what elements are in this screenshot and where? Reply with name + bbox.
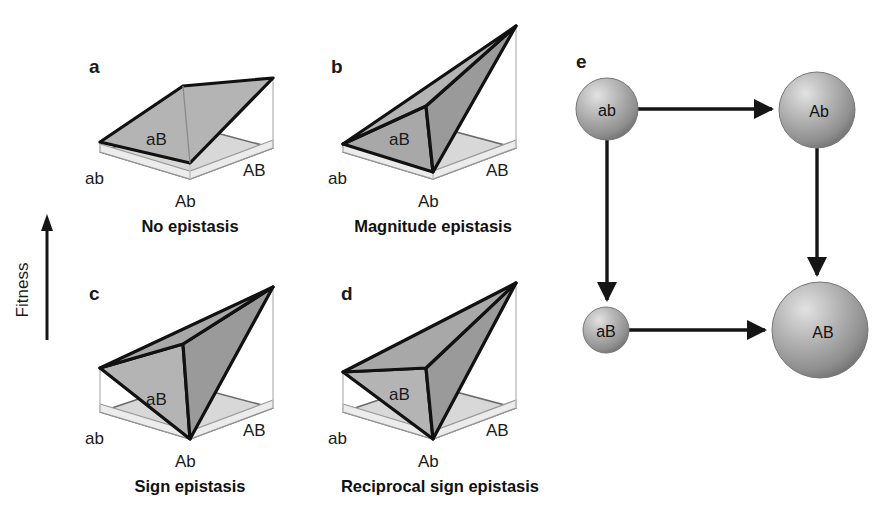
panel-c-vertex-AB: AB xyxy=(243,421,266,440)
node-AB-label: AB xyxy=(812,324,833,341)
epistasis-figure: Fitness a aB ab Ab AB No epistasis b aB … xyxy=(0,0,891,510)
panel-c-vertex-Ab: Ab xyxy=(175,452,196,471)
panel-c-caption: Sign epistasis xyxy=(135,477,246,495)
node-Ab[interactable]: Ab xyxy=(779,72,855,148)
panel-b: b aB ab Ab AB Magnitude epistasis xyxy=(328,26,516,235)
panel-c-letter: c xyxy=(89,283,100,304)
panel-a-vertex-Ab: Ab xyxy=(175,192,196,211)
panel-b-vertex-aB: aB xyxy=(389,130,410,149)
panel-e: e ab Ab aB AB xyxy=(576,51,868,378)
panel-d-vertex-AB: AB xyxy=(486,421,509,440)
panel-d-vertex-aB: aB xyxy=(389,385,410,404)
up-arrow-icon xyxy=(41,214,53,231)
panel-d-vertex-Ab: Ab xyxy=(418,452,439,471)
panel-c-vertex-aB: aB xyxy=(146,390,167,409)
node-aB-label: aB xyxy=(596,323,616,340)
panel-a-vertex-ab: ab xyxy=(85,169,104,188)
panel-d-surface-left xyxy=(343,368,433,439)
panel-d-caption: Reciprocal sign epistasis xyxy=(341,477,539,495)
panel-b-caption: Magnitude epistasis xyxy=(354,217,512,235)
panel-d: d aB ab Ab AB Reciprocal sign epistasis xyxy=(328,283,539,495)
node-AB[interactable]: AB xyxy=(772,282,868,378)
panel-c: c aB ab Ab AB Sign epistasis xyxy=(85,283,273,495)
panel-a-vertex-aB: aB xyxy=(146,130,167,149)
node-ab-label: ab xyxy=(598,102,616,119)
panel-b-vertex-AB: AB xyxy=(486,161,509,180)
panel-a-letter: a xyxy=(89,56,100,77)
node-ab[interactable]: ab xyxy=(576,78,638,140)
node-Ab-label: Ab xyxy=(809,103,829,120)
panel-b-letter: b xyxy=(331,56,343,77)
panel-a-caption: No epistasis xyxy=(141,217,238,235)
panel-a: a aB ab Ab AB No epistasis xyxy=(85,56,273,235)
panel-b-vertex-ab: ab xyxy=(328,169,347,188)
panel-d-vertex-ab: ab xyxy=(328,429,347,448)
node-aB[interactable]: aB xyxy=(583,307,629,353)
panel-d-letter: d xyxy=(341,283,353,304)
panel-e-letter: e xyxy=(576,51,587,72)
fitness-axis: Fitness xyxy=(13,214,53,340)
panel-a-vertex-AB: AB xyxy=(243,161,266,180)
fitness-axis-label: Fitness xyxy=(13,263,32,318)
panel-b-vertex-Ab: Ab xyxy=(418,192,439,211)
panel-c-vertex-ab: ab xyxy=(85,429,104,448)
